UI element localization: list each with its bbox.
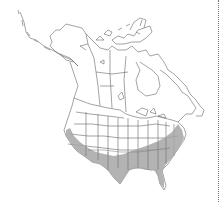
dotted-divider — [218, 0, 219, 202]
range-map — [0, 0, 221, 202]
north-america-map — [0, 0, 221, 202]
